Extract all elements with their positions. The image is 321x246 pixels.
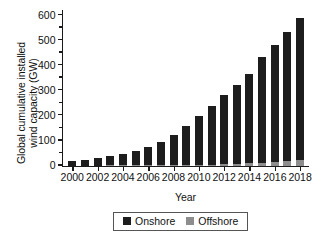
y-tick-label-500: 500: [38, 35, 56, 46]
x-tick-2002: [98, 167, 99, 171]
y-tick-minor-450: [59, 51, 62, 52]
legend-label-onshore: Onshore: [135, 216, 175, 227]
bar-segment-onshore-2005: [132, 151, 140, 166]
bar-segment-onshore-2008: [170, 135, 178, 165]
bar-segment-onshore-2007: [157, 142, 165, 165]
bar-2010: [195, 116, 203, 166]
y-tick-label-200: 200: [38, 110, 56, 121]
bar-segment-onshore-2016: [271, 45, 279, 162]
bar-2015: [258, 57, 266, 165]
bar-2006: [144, 147, 152, 166]
bar-2007: [157, 142, 165, 165]
bar-segment-offshore-2011: [208, 165, 216, 166]
bar-2011: [208, 106, 216, 166]
legend-label-offshore: Offshore: [198, 216, 238, 227]
bar-segment-offshore-2003: [106, 165, 114, 166]
x-tick-label-2012: 2012: [212, 172, 235, 183]
legend-swatch-offshore-icon: [186, 217, 194, 225]
y-tick-600: [58, 14, 63, 15]
legend-entry-offshore: Offshore: [186, 216, 238, 227]
x-tick-label-2000: 2000: [61, 172, 84, 183]
bar-segment-onshore-2001: [81, 160, 89, 166]
bar-2005: [132, 151, 140, 166]
bar-2009: [182, 126, 190, 166]
bar-segment-onshore-2012: [220, 95, 228, 165]
bar-segment-onshore-2011: [208, 106, 216, 165]
bar-segment-offshore-2005: [132, 165, 140, 166]
y-tick-500: [58, 39, 63, 40]
legend-entry-onshore: Onshore: [123, 216, 175, 227]
x-axis-title: Year: [62, 191, 309, 203]
bar-segment-onshore-2015: [258, 57, 266, 162]
bar-segment-offshore-2004: [119, 165, 127, 166]
bar-segment-onshore-2006: [144, 147, 152, 165]
bar-segment-offshore-2018: [296, 160, 304, 166]
bar-segment-onshore-2017: [283, 32, 291, 161]
x-tick-label-2008: 2008: [162, 172, 185, 183]
bar-segment-onshore-2002: [94, 158, 102, 166]
y-tick-minor-350: [59, 76, 62, 77]
y-tick-minor-50: [59, 152, 62, 153]
y-tick-label-600: 600: [38, 10, 56, 21]
bar-segment-onshore-2018: [296, 18, 304, 160]
bar-segment-onshore-2010: [195, 116, 203, 165]
y-axis-title-line-1: Global cumulative installed: [15, 42, 28, 164]
bar-segment-offshore-2008: [170, 165, 178, 166]
bar-2016: [271, 45, 279, 166]
bar-2002: [94, 158, 102, 166]
y-tick-400: [58, 64, 63, 65]
y-tick-200: [58, 114, 63, 115]
y-tick-minor-550: [59, 26, 62, 27]
y-tick-label-400: 400: [38, 60, 56, 71]
x-tick-2008: [174, 167, 175, 171]
bar-2012: [220, 95, 228, 166]
y-tick-label-300: 300: [38, 85, 56, 96]
bar-2014: [245, 74, 253, 165]
bar-segment-offshore-2010: [195, 165, 203, 166]
bar-segment-onshore-2000: [68, 161, 76, 165]
bar-2001: [81, 160, 89, 166]
bar-segment-offshore-2013: [233, 164, 241, 166]
x-tick-2014: [249, 167, 250, 171]
x-tick-label-2018: 2018: [288, 172, 311, 183]
bar-2017: [283, 32, 291, 166]
legend-swatch-onshore-icon: [123, 217, 131, 225]
x-tick-label-2014: 2014: [238, 172, 261, 183]
x-tick-2010: [199, 167, 200, 171]
bar-segment-onshore-2004: [119, 154, 127, 166]
x-tick-label-2002: 2002: [86, 172, 109, 183]
x-tick-label-2016: 2016: [263, 172, 286, 183]
bar-segment-offshore-2012: [220, 164, 228, 165]
x-axis-line: [62, 166, 309, 167]
x-tick-label-2004: 2004: [111, 172, 134, 183]
bar-2008: [170, 135, 178, 165]
bar-segment-offshore-2007: [157, 165, 165, 166]
plot-area: 0100200300400500600 20002002200420062008…: [62, 10, 309, 167]
x-tick-label-2010: 2010: [187, 172, 210, 183]
bar-segment-onshore-2009: [182, 126, 190, 165]
wind-capacity-bar-chart: Global cumulative installed wind capacit…: [0, 0, 321, 246]
y-tick-label-100: 100: [38, 135, 56, 146]
x-tick-2012: [224, 167, 225, 171]
x-tick-2006: [148, 167, 149, 171]
chart-legend: Onshore Offshore: [113, 212, 248, 231]
bar-segment-offshore-2006: [144, 165, 152, 166]
bar-segment-offshore-2015: [258, 163, 266, 166]
bar-2000: [68, 161, 76, 165]
x-tick-2000: [72, 167, 73, 171]
x-tick-2018: [300, 167, 301, 171]
y-tick-100: [58, 139, 63, 140]
bar-segment-offshore-2016: [271, 162, 279, 166]
bar-series-group: [63, 10, 309, 166]
bar-2018: [296, 18, 304, 166]
x-tick-label-2006: 2006: [137, 172, 160, 183]
bar-2004: [119, 154, 127, 166]
bar-segment-offshore-2014: [245, 163, 253, 165]
bar-segment-onshore-2013: [233, 85, 241, 164]
bar-segment-onshore-2014: [245, 74, 253, 163]
y-tick-minor-250: [59, 102, 62, 103]
y-tick-300: [58, 89, 63, 90]
y-tick-0: [58, 164, 63, 165]
bar-segment-offshore-2009: [182, 165, 190, 166]
bar-segment-offshore-2017: [283, 161, 291, 166]
